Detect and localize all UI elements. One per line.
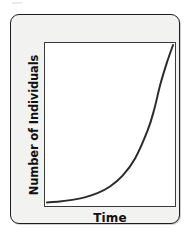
growth-curve-svg bbox=[45, 43, 175, 206]
exponential-growth-curve-line bbox=[47, 45, 173, 202]
x-axis-label: Time bbox=[44, 211, 176, 225]
y-axis-label: Number of Individuals bbox=[23, 42, 44, 207]
x-axis-label-text: Time bbox=[93, 211, 127, 225]
figure-frame: Number of Individuals Time bbox=[10, 14, 180, 224]
y-axis-label-text: Number of Individuals bbox=[27, 54, 41, 194]
plot-area bbox=[44, 42, 176, 207]
scan-artifact bbox=[12, 2, 22, 4]
